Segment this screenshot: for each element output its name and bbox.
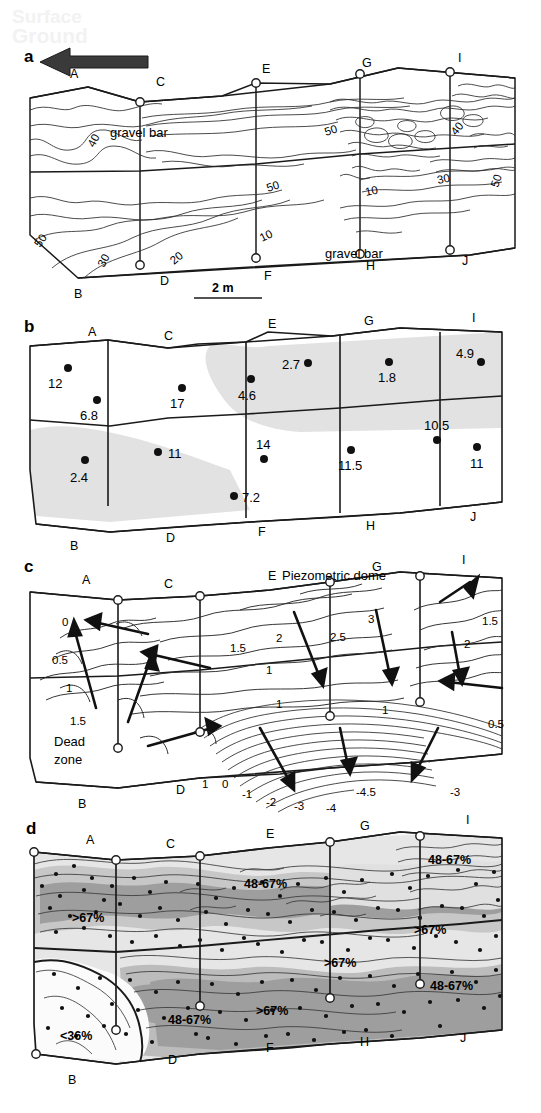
node-label-a-B: B: [74, 287, 82, 301]
node-label-a-F: F: [264, 269, 272, 283]
zone-label-d-2: 48-67%: [168, 1013, 211, 1027]
value-b-10: 1.8: [378, 370, 396, 385]
figure-root: Surface Ground: [0, 0, 541, 1113]
value-b-4: 17: [170, 396, 184, 411]
node-label-b-H: H: [366, 519, 375, 533]
node-label-a-H: H: [366, 259, 375, 273]
value-b-13: 10.5: [424, 418, 449, 433]
ghost-text-line1: Surface: [12, 6, 82, 28]
contour-label-c-18: 0: [222, 778, 228, 790]
contour-label-c-14: 0.5: [488, 718, 504, 730]
node-label-b-D: D: [166, 531, 175, 545]
contour-label-c-21: -3: [294, 800, 304, 812]
node-label-a-D: D: [160, 274, 169, 288]
piezometric-dome-label: Piezometric dome: [282, 568, 386, 583]
panel-d: d A B C D E F G H I J <36% 48-67% >67% 4…: [0, 812, 541, 1113]
zone-label-d-1: <36%: [60, 1029, 92, 1043]
contour-label-a-7: 10: [364, 184, 379, 198]
contour-label-a-3: 50: [32, 232, 49, 249]
node-label-d-C: C: [166, 837, 175, 851]
value-b-3: 2.4: [70, 470, 88, 485]
node-label-c-A: A: [82, 573, 91, 587]
node-label-a-A: A: [70, 67, 79, 81]
contour-label-a-5: 20: [168, 249, 186, 266]
gravel-bar-label-1: gravel bar: [110, 125, 168, 140]
value-b-2: 6.8: [80, 408, 98, 423]
zone-label-d-6: >67%: [324, 956, 356, 970]
node-label-d-A: A: [86, 833, 95, 847]
node-label-d-I: I: [466, 813, 469, 827]
value-b-1: 12: [48, 376, 62, 391]
node-label-a-I: I: [458, 51, 461, 65]
node-label-d-B: B: [68, 1073, 76, 1087]
panel-d-letter: d: [26, 819, 36, 838]
value-b-14: 11: [470, 456, 484, 471]
panel-b-letter: b: [24, 317, 34, 336]
node-label-b-I: I: [472, 311, 475, 325]
contour-label-c-16: -3: [450, 786, 460, 798]
flow-direction-arrow: [40, 48, 148, 76]
node-label-b-G: G: [364, 314, 374, 328]
zone-label-d-4: 48-67%: [244, 877, 287, 891]
value-b-11: 11.5: [338, 458, 362, 473]
contour-label-a-6: 10: [258, 227, 275, 243]
contour-label-c-11: 2: [464, 638, 470, 650]
panel-c: c A B C D E G I 0 0.5 1 1.5 1 1 1.5 2 2.…: [0, 550, 541, 815]
node-label-c-C: C: [164, 577, 173, 591]
zone-label-d-9: 48-67%: [430, 979, 473, 993]
contour-label-c-1: 0: [62, 616, 68, 628]
contour-label-c-2: 0.5: [52, 654, 68, 666]
panel-a: a A B C D E F G H I J 40 50 50 30 20 10 …: [0, 40, 541, 310]
node-label-a-E: E: [262, 62, 270, 76]
contour-label-c-5: 1: [266, 664, 272, 676]
node-label-d-J: J: [460, 1031, 466, 1045]
contour-label-c-3: 1: [66, 682, 72, 694]
dead-zone-label-line2: zone: [54, 752, 82, 767]
zone-label-d-5: >67%: [256, 1004, 288, 1018]
node-label-b-A: A: [88, 325, 97, 339]
node-label-d-H: H: [360, 1035, 369, 1049]
node-label-a-G: G: [362, 56, 372, 70]
contour-label-c-19: -1: [242, 788, 252, 800]
node-label-d-E: E: [266, 827, 274, 841]
value-b-7: 2.7: [282, 357, 300, 372]
zone-label-d-8: 48-67%: [428, 853, 471, 867]
node-label-b-J: J: [470, 510, 476, 524]
contour-label-c-15: -4.5: [356, 786, 376, 798]
value-b-8: 14: [256, 437, 270, 452]
panel-a-letter: a: [24, 47, 34, 66]
contour-label-c-8: 2: [276, 632, 282, 644]
node-label-b-F: F: [258, 525, 266, 539]
contour-label-a-9: 30: [436, 172, 451, 186]
contour-label-a-2: 50: [265, 179, 281, 194]
contour-label-c-4: 1.5: [70, 715, 86, 727]
node-label-c-I: I: [462, 553, 465, 567]
gravel-bar-label-2: gravel bar: [325, 246, 383, 261]
panel-b: b A B C D E F G H I J 12 6.8 2.4 17 11 4…: [0, 310, 541, 555]
node-label-d-F: F: [266, 1041, 274, 1055]
node-label-a-C: C: [156, 75, 165, 89]
node-label-a-J: J: [462, 254, 468, 268]
node-label-b-C: C: [164, 329, 173, 343]
contour-label-c-7: 1.5: [230, 642, 246, 654]
node-label-c-E: E: [268, 569, 276, 583]
contour-label-c-13: 1: [382, 704, 388, 716]
scale-bar-label: 2 m: [212, 281, 234, 295]
contour-label-a-11: 50: [488, 173, 503, 189]
contour-label-a-8: 50: [323, 123, 339, 138]
contour-label-c-6: 1: [276, 698, 282, 710]
node-label-c-D: D: [176, 783, 185, 797]
contour-label-c-9: 2.5: [330, 631, 346, 643]
dead-zone-label-line1: Dead: [54, 734, 85, 749]
contour-label-a-4: 30: [95, 252, 112, 269]
value-b-9: 7.2: [242, 490, 260, 505]
contour-label-a-1: 40: [85, 132, 102, 149]
contour-label-c-17: 1: [202, 778, 208, 790]
node-label-d-D: D: [168, 1053, 177, 1067]
zone-label-d-3: >67%: [72, 911, 104, 925]
value-b-12: 4.9: [456, 346, 474, 361]
contour-label-c-10: 3: [368, 613, 374, 625]
value-b-5: 11: [168, 446, 182, 461]
zone-label-d-7: >67%: [414, 923, 446, 937]
node-label-c-B: B: [78, 797, 86, 811]
